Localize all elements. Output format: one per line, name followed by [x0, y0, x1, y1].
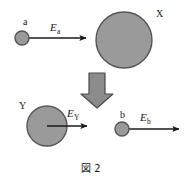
- field-subscript-Eb: b: [147, 117, 151, 126]
- field-subscript-EY: Y: [74, 113, 79, 122]
- sphere-b-label: b: [120, 110, 125, 120]
- sphere-b: [115, 122, 129, 136]
- figure-caption: 図 2: [81, 160, 101, 175]
- field-symbol-Eb: E: [140, 111, 147, 123]
- sphere-X-label: X: [156, 9, 163, 19]
- field-arrow-b-label: Eb: [140, 112, 150, 123]
- figure-container: a X Y b Ea EY Eb 図 2: [0, 0, 187, 183]
- field-arrow-a-label: Ea: [50, 22, 60, 33]
- sphere-a: [15, 31, 29, 45]
- sphere-X: [96, 12, 152, 68]
- sphere-Y-label: Y: [19, 101, 26, 111]
- field-symbol-EY: E: [67, 107, 74, 119]
- field-symbol-Ea: E: [50, 21, 57, 33]
- sphere-a-label: a: [23, 17, 27, 27]
- downward-block-arrow-icon: [81, 73, 113, 108]
- figure-canvas: [0, 0, 187, 183]
- field-subscript-Ea: a: [57, 27, 60, 36]
- field-arrow-Y-label: EY: [67, 108, 79, 119]
